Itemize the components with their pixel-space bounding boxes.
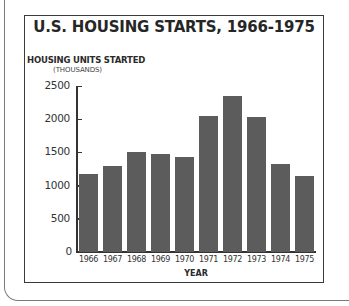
y-tick-label: 2000: [30, 112, 70, 124]
bar-1970: [175, 157, 194, 252]
x-tick-label: 1970: [173, 255, 197, 264]
bar-1974: [271, 164, 290, 252]
y-tick-mark: [76, 152, 82, 154]
x-tick-label: 1975: [293, 255, 317, 264]
y-axis-label: HOUSING UNITS STARTED: [27, 55, 145, 65]
y-axis-unit-label: (THOUSANDS): [53, 66, 102, 74]
bar-1966: [79, 174, 98, 252]
bar-1971: [199, 116, 218, 252]
bar-1973: [247, 117, 266, 252]
bar-1968: [127, 152, 146, 252]
x-tick-label: 1971: [197, 255, 221, 264]
y-tick-mark: [76, 119, 82, 121]
bar-1967: [103, 166, 122, 252]
y-tick-mark: [76, 86, 82, 88]
x-tick-label: 1967: [101, 255, 125, 264]
y-tick-label: 2500: [30, 79, 70, 91]
bar-1975: [295, 176, 314, 252]
y-tick-label: 0: [32, 245, 72, 257]
y-tick-label: 500: [30, 212, 70, 224]
x-axis-label: YEAR: [76, 269, 316, 278]
bar-1969: [151, 154, 170, 252]
y-tick-label: 1500: [30, 145, 70, 157]
x-tick-label: 1974: [269, 255, 293, 264]
chart-title: U.S. HOUSING STARTS, 1966-1975: [24, 18, 324, 36]
x-tick-label: 1969: [149, 255, 173, 264]
x-tick-label: 1968: [125, 255, 149, 264]
y-axis-line: [76, 86, 78, 252]
bar-1972: [223, 96, 242, 252]
x-tick-label: 1972: [221, 255, 245, 264]
y-tick-label: 1000: [30, 179, 70, 191]
x-tick-label: 1966: [77, 255, 101, 264]
x-tick-label: 1973: [245, 255, 269, 264]
